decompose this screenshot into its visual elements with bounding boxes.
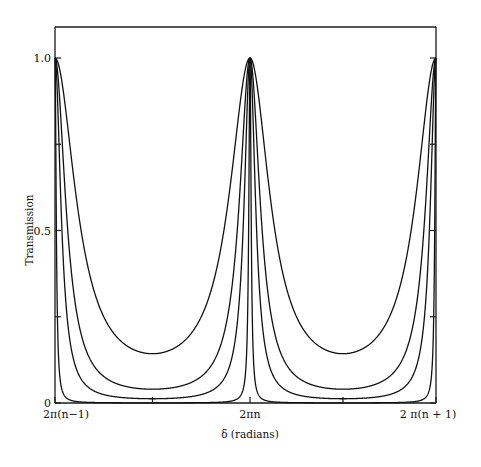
curve-high-finesse <box>55 58 436 399</box>
curve-very-high-finesse <box>55 58 436 403</box>
y-tick-label: 0.5 <box>34 225 52 238</box>
y-tick-label: 1.0 <box>34 52 52 65</box>
y-axis-label: Transmission <box>23 194 35 265</box>
y-tick-label: 0 <box>44 397 51 410</box>
x-tick-label: 2πn <box>239 408 260 421</box>
transmission-chart: 2π(n−1)2πn2 π(n + 1)00.51.0 δ (radians) … <box>0 0 481 467</box>
x-axis-label: δ (radians) <box>221 428 279 440</box>
x-tick-label: 2 π(n + 1) <box>400 408 457 421</box>
plot-frame <box>55 27 436 403</box>
curve-medium-finesse <box>55 58 436 389</box>
ticks-group <box>55 58 436 403</box>
curves-group <box>55 58 436 403</box>
